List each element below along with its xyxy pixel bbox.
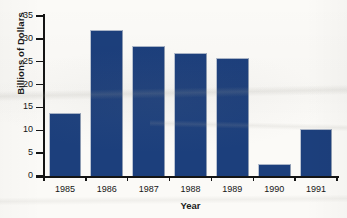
x-tick-label-1988: 1988 [170,184,212,194]
y-tick-label: 10 [8,124,33,134]
x-tick-label-1990: 1990 [253,184,295,194]
x-tick-mark [169,176,170,181]
bar-1991 [300,129,333,176]
x-tick-label-1987: 1987 [128,184,170,194]
x-axis-title: Year [44,200,337,211]
x-tick-mark [253,176,254,181]
y-tick-mark [36,61,44,62]
bar-1986 [90,30,123,176]
y-tick-mark [36,84,44,85]
y-tick-label: 35 [8,10,33,20]
x-tick-mark-origin [43,176,44,181]
plot-area [44,16,337,176]
y-tick-mark [36,152,44,153]
y-tick-mark [36,130,44,131]
x-tick-mark [336,176,337,181]
bar-1985 [49,113,82,176]
y-tick-label: 15 [8,101,33,111]
x-tick-label-1989: 1989 [211,184,253,194]
x-tick-label-1991: 1991 [295,184,337,194]
chart-screenshot: Billions of Dollars 05101520253035 19851… [0,0,347,218]
x-tick-label-1986: 1986 [86,184,128,194]
y-tick-label: 0 [8,170,33,180]
x-tick-mark [211,176,212,181]
bar-1988 [174,53,207,176]
x-tick-label-1985: 1985 [44,184,86,194]
bar-1987 [132,46,165,176]
x-tick-mark [127,176,128,181]
x-tick-mark [294,176,295,181]
y-tick-mark [36,107,44,108]
x-tick-mark [85,176,86,181]
y-tick-mark [36,38,44,39]
y-tick-mark [36,15,44,16]
y-tick-label: 30 [8,33,33,43]
y-tick-label: 5 [8,147,33,157]
bar-1990 [258,164,291,176]
bar-1989 [216,58,249,176]
y-tick-label: 20 [8,79,33,89]
y-tick-label: 25 [8,56,33,66]
